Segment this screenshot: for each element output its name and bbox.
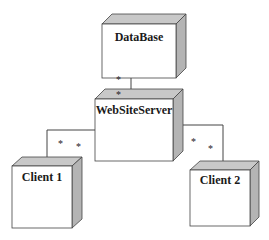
node-side-face (72, 157, 82, 228)
multiplicity-client2-target: * (208, 143, 213, 154)
node-side-face (173, 89, 183, 161)
node-database[interactable]: DataBase (102, 14, 186, 78)
multiplicity-client2-source: * (191, 136, 196, 147)
node-label-database: DataBase (115, 30, 164, 44)
node-client2[interactable]: Client 2 (190, 161, 259, 226)
node-side-face (176, 14, 186, 78)
node-client1[interactable]: Client 1 (12, 157, 82, 228)
node-label-client2: Client 2 (200, 173, 240, 187)
node-top-face (190, 161, 259, 170)
node-top-face (12, 157, 82, 166)
node-top-face (95, 89, 183, 99)
node-label-client1: Client 1 (22, 170, 62, 184)
node-websiteserver[interactable]: WebSiteServer (95, 89, 183, 161)
multiplicity-database-source: * (116, 74, 121, 85)
node-top-face (102, 14, 186, 24)
multiplicity-client1-source: * (58, 138, 63, 149)
multiplicity-client1-target: * (76, 141, 81, 152)
multiplicity-database-target: * (116, 89, 121, 100)
node-side-face (250, 161, 259, 226)
node-label-websiteserver: WebSiteServer (96, 103, 173, 117)
deployment-diagram: DataBase WebSiteServer Client 1 Client 2… (0, 0, 269, 240)
